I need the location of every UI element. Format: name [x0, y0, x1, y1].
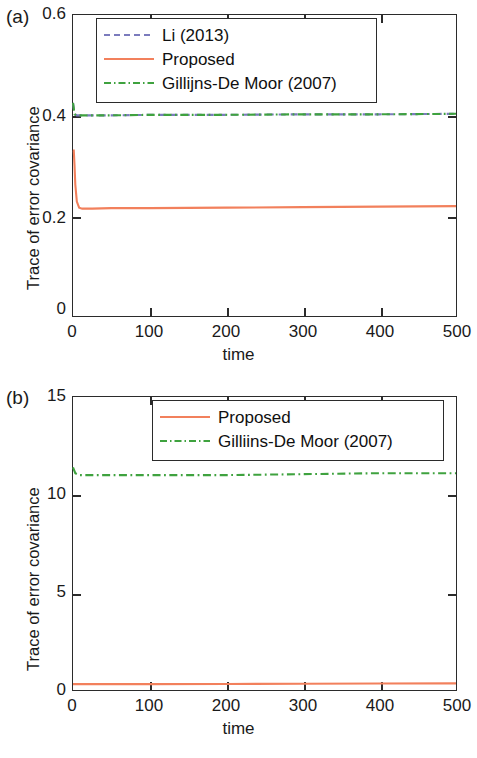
- panel-a-xtick-200: 200: [206, 322, 246, 342]
- panel-a-legend-item-li2013: Li (2013): [103, 23, 368, 47]
- panel-b-ytick-15: 15: [22, 386, 66, 406]
- panel-b-ytick-5: 5: [22, 582, 66, 602]
- panel-b-xtick-0: 0: [52, 696, 92, 716]
- panel-a-ytick-0.2: 0.2: [22, 208, 66, 228]
- panel-b-legend-item-gilliins: Gilliins-De Moor (2007): [159, 429, 435, 453]
- panel-a-xtick-300: 300: [283, 322, 323, 342]
- panel-a-legend-item-gillijns: Gillijns-De Moor (2007): [103, 71, 368, 95]
- panel-a-ytick-0.4: 0.4: [22, 106, 66, 126]
- panel-b-legend-label-0: Proposed: [218, 409, 291, 426]
- panel-b-x-axis-label: time: [0, 719, 477, 739]
- series-line-gilliins-de-moor-2007-: [73, 467, 456, 475]
- panel-a-xtick-0: 0: [52, 322, 92, 342]
- panel-a-xtick-100: 100: [129, 322, 169, 342]
- legend-line-dashed-icon: [103, 28, 155, 42]
- panel-b-ytick-10: 10: [22, 484, 66, 504]
- series-line-proposed: [73, 150, 456, 208]
- panel-a-legend-label-1: Proposed: [162, 51, 235, 68]
- panel-b-legend-item-proposed: Proposed: [159, 405, 435, 429]
- panel-b-xtick-300: 300: [283, 696, 323, 716]
- legend-line-solid-icon: [103, 52, 155, 66]
- panel-a-legend-item-proposed: Proposed: [103, 47, 368, 71]
- series-line-proposed: [73, 683, 456, 684]
- panel-a-ytick-0.6: 0.6: [22, 4, 66, 24]
- panel-b-xtick-200: 200: [206, 696, 246, 716]
- panel-b-xtick-400: 400: [360, 696, 400, 716]
- legend-line-solid-icon: [159, 410, 211, 424]
- legend-line-dashdot-icon: [159, 434, 211, 448]
- panel-a: (a) Trace of error covariance 0.6 0.4 0.…: [0, 0, 477, 379]
- panel-a-ytick-0: 0: [22, 299, 66, 319]
- panel-b-y-axis-label: Trace of error covariance: [24, 487, 43, 671]
- panel-a-legend-label-0: Li (2013): [162, 27, 229, 44]
- panel-a-legend-label-2: Gillijns-De Moor (2007): [162, 75, 337, 92]
- panel-a-legend: Li (2013) Proposed Gillijns-De Moor (200…: [96, 18, 377, 103]
- panel-b-xtick-100: 100: [129, 696, 169, 716]
- panel-a-y-axis-label: Trace of error covariance: [24, 106, 43, 290]
- panel-b-xtick-500: 500: [437, 696, 477, 716]
- panel-b-legend: Proposed Gilliins-De Moor (2007): [152, 400, 444, 461]
- legend-line-dashdot-icon: [103, 76, 155, 90]
- panel-a-xtick-500: 500: [437, 322, 477, 342]
- panel-a-xtick-400: 400: [360, 322, 400, 342]
- panel-a-x-axis-label: time: [0, 345, 477, 365]
- panel-b-legend-label-1: Gilliins-De Moor (2007): [218, 433, 393, 450]
- series-line-gillijns-de-moor-2007-: [73, 103, 456, 116]
- panel-b: (b) Trace of error covariance 15 10 5 0 …: [0, 379, 477, 758]
- series-line-li-2013-: [73, 103, 456, 116]
